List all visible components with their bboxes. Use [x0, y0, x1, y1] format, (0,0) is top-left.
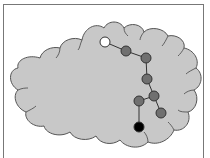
- node: [141, 53, 151, 63]
- end-node: [134, 122, 144, 132]
- node: [142, 74, 152, 84]
- diagram-canvas: [0, 0, 210, 158]
- node: [121, 46, 131, 56]
- node: [149, 91, 159, 101]
- start-node: [100, 37, 110, 47]
- node: [134, 96, 144, 106]
- node: [156, 108, 166, 118]
